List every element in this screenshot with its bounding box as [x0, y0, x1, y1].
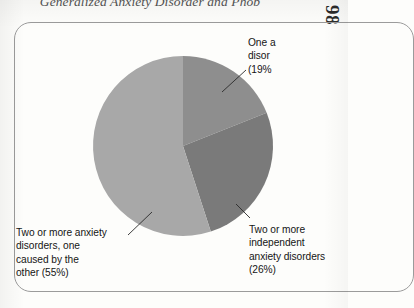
callout-line: disor: [248, 49, 344, 62]
callout-two-or-more-independent: Two or more independent anxiety disorder…: [249, 223, 345, 277]
callout-one-anxiety-disorder: One a disor (19%: [248, 36, 344, 76]
callout-line: (26%): [249, 263, 345, 276]
pie-slices: [93, 56, 273, 236]
callout-line: other (55%): [16, 266, 162, 279]
callout-line: (19%: [248, 63, 344, 76]
callout-line: Two or more anxiety: [16, 226, 162, 239]
callout-line: One a: [248, 36, 344, 49]
callout-line: caused by the: [16, 253, 162, 266]
callout-line: Two or more: [249, 223, 345, 236]
callout-two-or-more-caused: Two or more anxiety disorders, one cause…: [16, 226, 162, 280]
callout-line: anxiety disorders: [249, 250, 345, 263]
callout-line: independent: [249, 236, 345, 249]
callout-line: disorders, one: [16, 239, 162, 252]
